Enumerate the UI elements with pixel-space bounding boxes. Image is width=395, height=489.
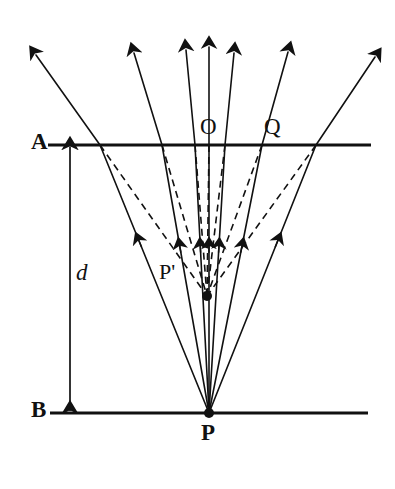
ray-far-left-incident-arrowhead [138, 237, 142, 246]
ray-far-right-incident [209, 145, 316, 413]
ray-far-right-incident-arrowhead [275, 237, 279, 246]
ray-mid-right-incident-arrowhead [219, 243, 220, 252]
label-surface-A: A [31, 130, 48, 153]
label-depth-d: d [76, 261, 88, 284]
ray-left-refracted [134, 53, 162, 145]
ray-mid-right-refracted [225, 53, 234, 145]
label-virtual-image-P-prime: P' [159, 261, 175, 283]
ray-mid-left-refracted [186, 50, 195, 145]
ray-far-left-virtual-extension [100, 145, 207, 296]
ray-left-incident-arrowhead [179, 243, 181, 252]
label-source-P: P [201, 421, 215, 444]
ray-far-right-refracted [316, 57, 375, 145]
optics-ray-diagram: A B d O Q P' P const data = JSON.parse(d… [0, 0, 395, 489]
label-surface-B: B [31, 398, 46, 421]
label-point-Q: Q [264, 115, 281, 138]
diagram-canvas [0, 0, 395, 489]
ray-far-left-incident [100, 145, 209, 413]
source-point-dot [204, 408, 214, 418]
virtual-ray-extensions-group [100, 145, 316, 296]
virtual-image-dot [202, 291, 212, 301]
label-point-O: O [200, 115, 217, 138]
